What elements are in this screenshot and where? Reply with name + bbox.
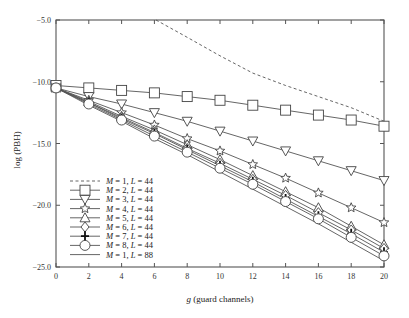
plus-marker: [81, 231, 89, 241]
star-marker: [379, 218, 389, 227]
x-tick-label: 16: [314, 272, 322, 281]
y-tick-label: −15.0: [32, 140, 51, 149]
x-axis-label: g (guard channels): [187, 294, 254, 304]
y-tick-label: −20.0: [32, 201, 51, 210]
circle-marker: [84, 99, 94, 109]
square-marker: [248, 100, 258, 110]
x-tick-label: 18: [347, 272, 355, 281]
square-marker: [182, 92, 192, 102]
star-marker: [80, 204, 90, 213]
triangle-down-marker: [313, 157, 323, 166]
circle-marker: [248, 179, 258, 189]
star-marker: [215, 146, 225, 155]
y-axis-label: log (PBH): [12, 131, 22, 168]
circle-marker: [182, 147, 192, 157]
square-marker: [149, 88, 159, 98]
legend-entry: M = 1, L = 88: [105, 250, 153, 260]
square-marker: [379, 121, 389, 131]
triangle-down-marker: [248, 137, 258, 146]
star-marker: [248, 160, 258, 169]
triangle-down-marker: [182, 117, 192, 126]
circle-marker: [281, 197, 291, 207]
x-tick-label: 8: [185, 272, 189, 281]
legend: M = 1, L = 44M = 2, L = 44M = 3, L = 44M…: [70, 176, 154, 260]
square-marker: [215, 95, 225, 105]
series-line: [156, 20, 384, 121]
triangle-down-marker: [379, 177, 389, 186]
x-tick-label: 10: [216, 272, 224, 281]
x-tick-label: 6: [152, 272, 156, 281]
x-tick-label: 20: [380, 272, 388, 281]
circle-marker: [346, 232, 356, 242]
square-marker: [281, 105, 291, 115]
circle-marker: [313, 214, 323, 224]
star-marker: [346, 203, 356, 212]
x-tick-label: 4: [120, 272, 124, 281]
circle-marker: [51, 83, 61, 93]
star-marker: [314, 188, 324, 197]
triangle-down-marker: [215, 127, 225, 136]
circle-marker: [215, 163, 225, 173]
series-line: [56, 86, 384, 127]
circle-marker: [379, 251, 389, 261]
y-tick-label: −10.0: [32, 78, 51, 87]
triangle-up-marker: [80, 213, 90, 222]
square-marker: [346, 115, 356, 125]
x-tick-label: 14: [282, 272, 290, 281]
x-tick-label: 2: [87, 272, 91, 281]
square-marker: [84, 83, 94, 93]
square-marker: [313, 110, 323, 120]
square-marker: [80, 185, 90, 195]
circle-marker: [149, 131, 159, 141]
square-marker: [117, 85, 127, 95]
triangle-down-marker: [281, 147, 291, 156]
circle-marker: [117, 115, 127, 125]
y-tick-label: −5.0: [36, 16, 51, 25]
chart: 02468101214161820−5.0−10.0−15.0−20.0−25.…: [0, 0, 409, 318]
x-tick-label: 12: [249, 272, 257, 281]
diamond-marker: [81, 222, 89, 232]
circle-marker: [80, 240, 90, 250]
y-tick-label: −25.0: [32, 263, 51, 272]
star-marker: [281, 173, 291, 182]
x-tick-label: 0: [54, 272, 58, 281]
triangle-down-marker: [346, 167, 356, 176]
